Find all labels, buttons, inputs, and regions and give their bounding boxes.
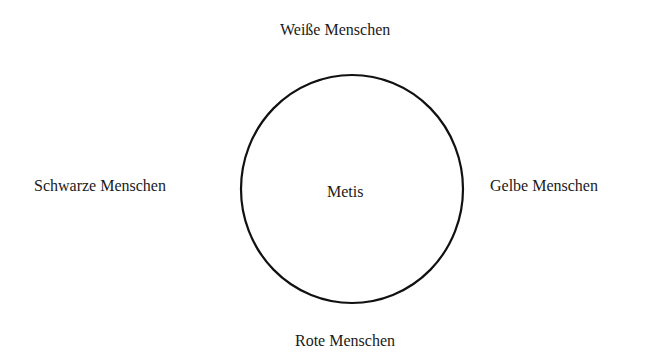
label-red-people: Rote Menschen: [295, 333, 395, 349]
center-label-metis: Metis: [327, 184, 363, 200]
label-black-people: Schwarze Menschen: [34, 178, 166, 194]
label-white-people: Weiße Menschen: [280, 22, 390, 38]
label-yellow-people: Gelbe Menschen: [490, 178, 598, 194]
